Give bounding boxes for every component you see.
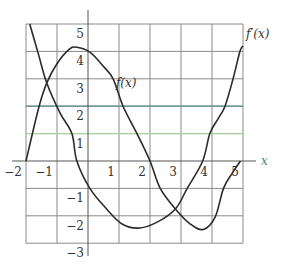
curves [26,24,243,230]
curve-f-prime-label: f′(x) [245,27,270,41]
x-tick-label: 3 [169,165,177,179]
y-tick-label: 3 [76,82,84,96]
y-tick-label: 4 [76,54,84,68]
y-tick-label: 5 [76,27,84,41]
y-tick-label: −3 [66,246,84,260]
y-tick-label: −1 [66,191,84,205]
y-tick-label: 1 [76,137,84,151]
y-tick-label: 2 [76,109,84,123]
x-tick-label: 1 [107,165,115,179]
x-axis-label: x [261,154,268,168]
curve-f-prime [30,24,243,228]
y-tick-label: −2 [66,219,84,233]
x-tick-label: −1 [35,165,53,179]
curve-f-label: f(x) [115,76,137,90]
x-tick-label: 2 [138,165,146,179]
tick-labels: −2−11234554321−1−2−3 [4,27,239,260]
graph-f-and-derivative: −2−11234554321−1−2−3 f(x)f′(x) x [0,0,289,266]
curve-labels: f(x)f′(x) [115,27,270,90]
x-tick-label: 4 [200,165,208,179]
x-tick-label: −2 [4,165,22,179]
